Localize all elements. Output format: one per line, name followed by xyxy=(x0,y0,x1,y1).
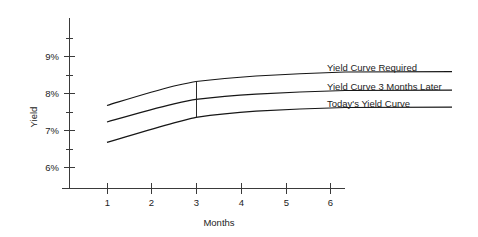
series-label-yield-curve-required: Yield Curve Required xyxy=(327,62,417,73)
y-axis-title: Yield xyxy=(28,107,39,128)
y-tick-label-9: 9% xyxy=(45,51,59,62)
x-tick-label-5: 5 xyxy=(284,197,289,208)
x-tick-label-3: 3 xyxy=(194,197,199,208)
y-axis-tick-labels: 9% 8% 7% 6% xyxy=(45,51,59,173)
series-labels: Yield Curve Required Yield Curve 3 Month… xyxy=(327,62,442,109)
x-axis-tick-labels: 1 2 3 4 5 6 xyxy=(105,197,333,208)
x-tick-label-1: 1 xyxy=(105,197,110,208)
x-tick-label-2: 2 xyxy=(149,197,154,208)
x-tick-label-6: 6 xyxy=(328,197,333,208)
y-tick-label-6: 6% xyxy=(45,162,59,173)
yield-curve-chart: 9% 8% 7% 6% 1 2 3 4 5 6 Months Yield xyxy=(0,0,478,237)
series-label-todays-yield-curve: Today's Yield Curve xyxy=(327,98,410,109)
x-tick-label-4: 4 xyxy=(239,197,244,208)
x-axis-title: Months xyxy=(203,217,234,228)
curve-todays-yield-curve xyxy=(107,107,452,142)
y-tick-label-8: 8% xyxy=(45,88,59,99)
chart-container: 9% 8% 7% 6% 1 2 3 4 5 6 Months Yield xyxy=(0,0,478,237)
series-label-yield-curve-3-months-later: Yield Curve 3 Months Later xyxy=(327,81,442,92)
y-tick-label-7: 7% xyxy=(45,125,59,136)
